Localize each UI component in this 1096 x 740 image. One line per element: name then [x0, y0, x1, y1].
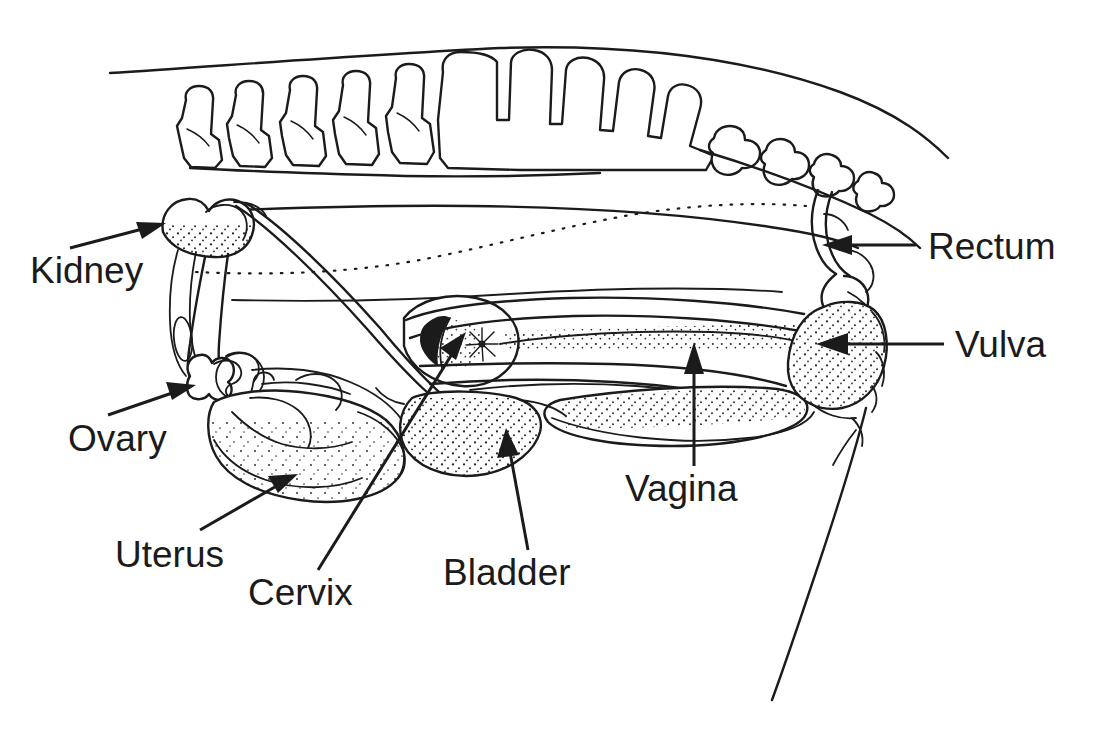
- lumbar-vertebra: [386, 64, 434, 164]
- vulva-group: [788, 300, 896, 446]
- label-rectum: Rectum: [928, 228, 1055, 265]
- rectum-inner-fold: [824, 214, 848, 230]
- lumbar-vertebra: [177, 86, 222, 168]
- lumbar-vertebra: [333, 71, 379, 165]
- anus-fold: [840, 250, 873, 292]
- bladder-leader: [510, 452, 528, 550]
- lumbar-vertebra: [280, 76, 326, 166]
- inner-body-line: [232, 288, 782, 300]
- caudal-vertebra: [853, 172, 894, 211]
- lumbar-vertebra: [227, 81, 272, 167]
- diagram-canvas: .ln { fill:none; stroke:#1b1b1b; stroke-…: [0, 0, 1096, 740]
- label-vagina: Vagina: [625, 470, 737, 507]
- rectum-dorsal: [812, 190, 836, 274]
- label-ovary: Ovary: [68, 420, 167, 457]
- label-bladder: Bladder: [443, 554, 571, 591]
- abdominal-wall-line: [188, 206, 858, 248]
- label-uterus: Uterus: [115, 536, 224, 573]
- ovary-leader: [108, 391, 178, 415]
- peritoneum-dotted-line: [196, 204, 806, 273]
- label-kidney: Kidney: [30, 252, 143, 289]
- rectum-ventral: [826, 192, 850, 276]
- kidney-leader: [70, 227, 150, 248]
- sacrum: [438, 50, 714, 170]
- renal-vessel: [170, 250, 186, 376]
- anatomy-illustration: .ln { fill:none; stroke:#1b1b1b; stroke-…: [0, 0, 1096, 740]
- label-vulva: Vulva: [955, 326, 1046, 363]
- uterus-group: [206, 369, 416, 511]
- urachus-ligament: [376, 388, 404, 404]
- uterus-leader: [200, 484, 280, 530]
- kidney-arrowhead: [136, 222, 166, 239]
- label-cervix: Cervix: [248, 574, 353, 611]
- hind-leg-contour: [772, 408, 866, 700]
